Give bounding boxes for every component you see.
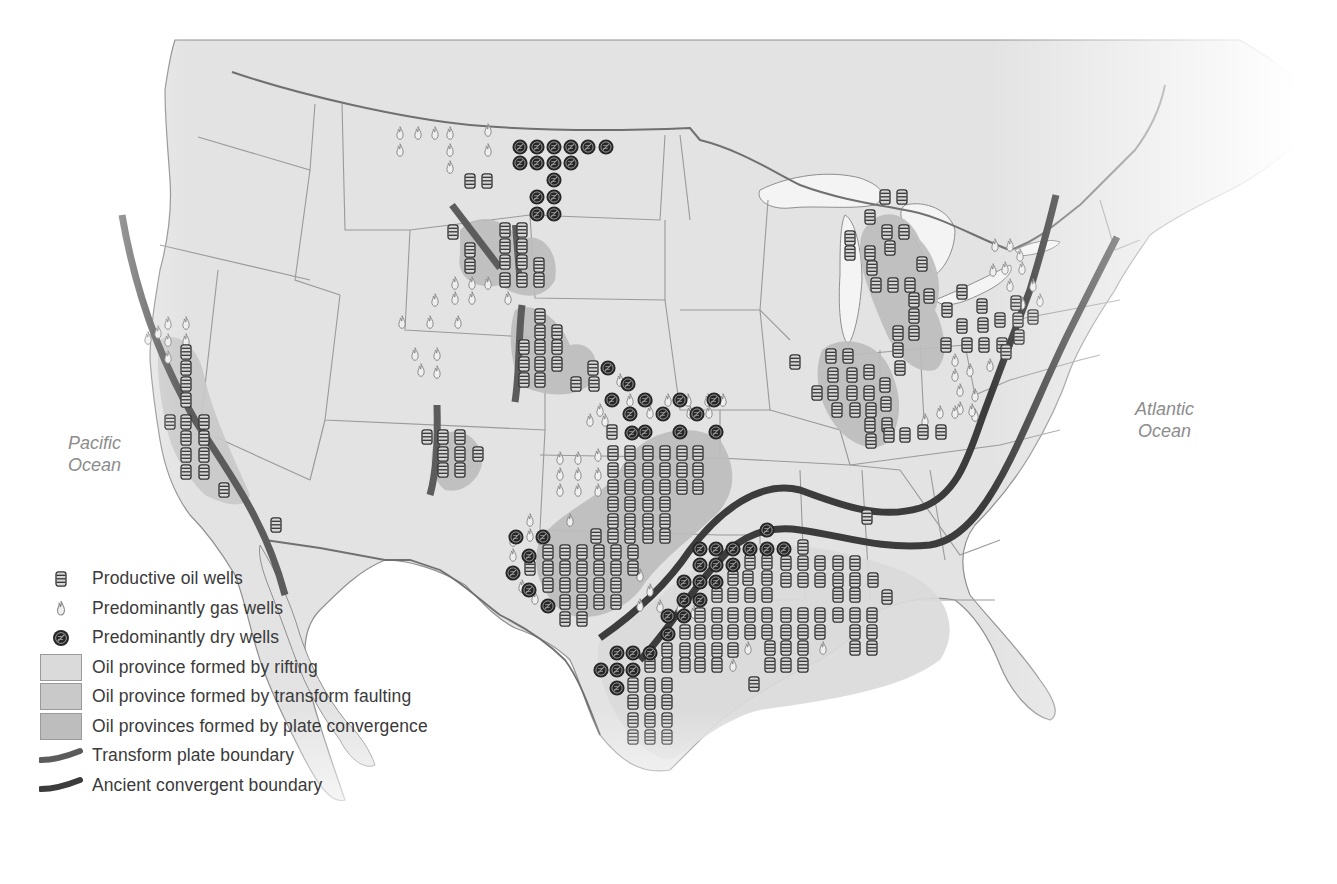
pacific-label-line2: Ocean [68,454,121,476]
legend-label-oil: Productive oil wells [92,568,243,589]
dry-well-icon [52,629,70,647]
legend-item-gas: Predominantly gas wells [30,594,490,624]
legend-item-transform: Oil province formed by transform faultin… [30,682,490,712]
rift-province-swatch [40,654,82,681]
oil-province-map: Pacific Ocean Atlantic Ocean Productive … [0,0,1337,884]
legend-item-oil: Productive oil wells [30,564,490,594]
pacific-label-line1: Pacific [68,432,121,454]
legend-label-gas: Predominantly gas wells [92,598,283,619]
oil-well-icon [55,571,67,587]
atlantic-ocean-label: Atlantic Ocean [1135,398,1194,442]
transform-boundary-icon [39,747,83,765]
legend-label-convergence: Oil provinces formed by plate convergenc… [92,716,428,737]
convergence-province-swatch [40,713,82,740]
legend-label-transform: Oil province formed by transform faultin… [92,686,411,707]
legend-label-rift: Oil province formed by rifting [92,657,318,678]
pacific-ocean-label: Pacific Ocean [68,432,121,476]
legend-label-dry: Predominantly dry wells [92,627,279,648]
legend-item-dry: Predominantly dry wells [30,623,490,653]
map-legend: Productive oil wells Predominantly gas w… [30,564,490,800]
legend-label-transform-boundary: Transform plate boundary [92,745,294,766]
convergent-boundary-icon [39,776,83,794]
gas-well-icon [56,600,66,616]
atlantic-label-line2: Ocean [1135,420,1194,442]
atlantic-label-line1: Atlantic [1135,398,1194,420]
legend-item-transform-boundary: Transform plate boundary [30,741,490,771]
legend-item-convergence: Oil provinces formed by plate convergenc… [30,712,490,742]
legend-item-convergent-boundary: Ancient convergent boundary [30,771,490,801]
transform-province-swatch [40,683,82,710]
legend-item-rift: Oil province formed by rifting [30,653,490,683]
legend-label-convergent-boundary: Ancient convergent boundary [92,775,322,796]
